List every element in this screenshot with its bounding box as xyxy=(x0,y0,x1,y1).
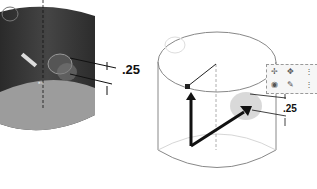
point-icon[interactable]: ✢ xyxy=(271,67,278,76)
more-icon[interactable]: ⋮ xyxy=(305,67,313,76)
left-dimension-label: .25 xyxy=(122,62,140,77)
point-label-icon: ▪▫ xyxy=(38,79,43,86)
right-cylinder-figure xyxy=(150,0,317,189)
sketch-point-icon xyxy=(185,84,190,89)
right-dimension-label: .25 xyxy=(283,103,297,114)
more-icon-2[interactable]: ⋮ xyxy=(305,80,313,89)
arrow-up-icon xyxy=(186,92,196,100)
cylinder-top-edge xyxy=(158,32,276,92)
pin-icon[interactable]: ✥ xyxy=(287,67,294,76)
tool-icon[interactable]: ✎ xyxy=(287,80,294,89)
context-toolbar: ✢ ✥ ⋮ ◉ ✎ ⋮ xyxy=(266,64,317,94)
sketch-icon[interactable]: ◉ xyxy=(271,80,278,89)
cylinder-bottom-face xyxy=(0,80,95,130)
